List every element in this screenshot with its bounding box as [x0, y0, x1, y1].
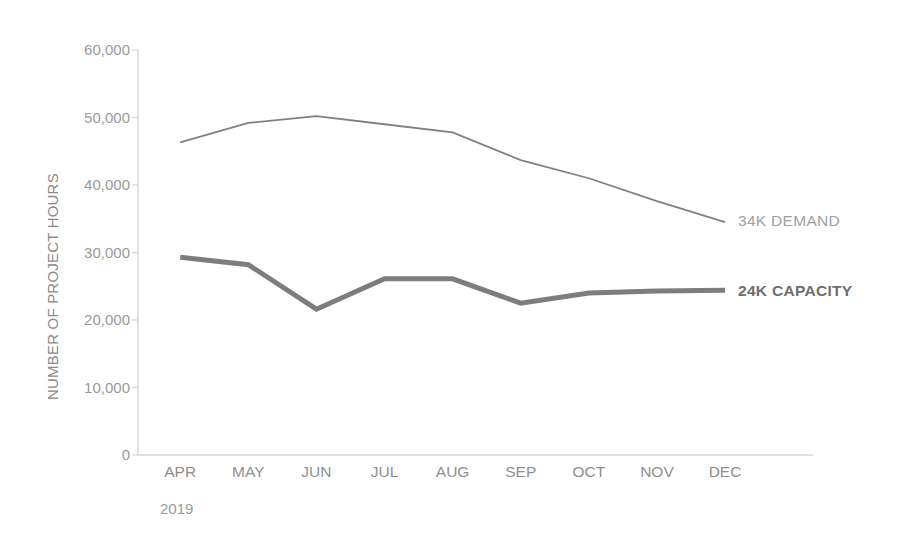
series-line-capacity: [180, 257, 725, 309]
plot-area: [0, 0, 917, 555]
series-annotation-capacity: 24K CAPACITY: [738, 282, 852, 300]
series-annotation-demand: 34K DEMAND: [738, 212, 840, 230]
series-line-demand: [180, 116, 725, 222]
line-chart: NUMBER OF PROJECT HOURS 60,00050,00040,0…: [0, 0, 917, 555]
